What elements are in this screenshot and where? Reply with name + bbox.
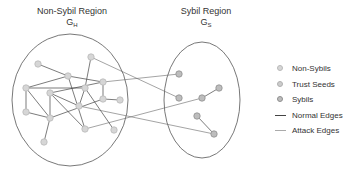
- legend-item-non-sybils: Non-Sybils: [274, 62, 331, 74]
- graph-nodes: [23, 54, 222, 145]
- sybil-region-label: Sybil Region: [181, 6, 232, 16]
- normal-edge-icon: [274, 109, 286, 121]
- non-sybil-node: [65, 73, 71, 79]
- normal-edge: [85, 57, 91, 88]
- legend-label: Non-Sybils: [292, 64, 331, 73]
- legend-label: Sybils: [292, 95, 313, 104]
- non-sybil-node: [23, 109, 29, 115]
- sybil-node: [194, 113, 200, 119]
- non-sybil-node: [76, 103, 82, 109]
- sybil-node: [176, 95, 182, 101]
- non-sybil-node: [23, 85, 29, 91]
- normal-edge: [50, 93, 79, 106]
- attack-edge: [79, 106, 214, 134]
- legend-label: Normal Edges: [292, 111, 343, 120]
- legend-item-trust-seeds: Trust Seeds: [274, 78, 335, 90]
- sybil-node: [216, 85, 222, 91]
- legend-label: Trust Seeds: [292, 80, 335, 89]
- normal-edge: [44, 118, 50, 142]
- sybil-network-diagram: Non-Sybil Region GH Sybil Region GS Non-…: [0, 0, 354, 170]
- normal-edge: [85, 88, 114, 130]
- honest-region-title: Non-Sybil Region GH: [22, 6, 122, 31]
- non-sybil-node-icon: [274, 62, 286, 74]
- normal-edge: [26, 76, 68, 88]
- non-sybil-node: [47, 90, 53, 96]
- normal-edge: [26, 88, 50, 118]
- non-sybil-node: [82, 126, 88, 132]
- non-sybil-node: [41, 139, 47, 145]
- honest-region-ellipse: [12, 34, 128, 166]
- sybil-node: [199, 95, 205, 101]
- attack-edge: [91, 57, 179, 98]
- normal-edge: [38, 64, 68, 76]
- non-sybil-node: [117, 97, 123, 103]
- non-sybil-node: [100, 79, 106, 85]
- honest-region-label: Non-Sybil Region: [37, 6, 107, 16]
- non-sybil-node: [82, 85, 88, 91]
- non-sybil-node: [35, 61, 41, 67]
- honest-region-symbol: GH: [22, 17, 122, 31]
- region-ellipses: [12, 34, 240, 166]
- non-sybil-node: [47, 115, 53, 121]
- legend-item-normal-edges: Normal Edges: [274, 109, 343, 121]
- attack-edge: [103, 74, 179, 82]
- normal-edge: [50, 93, 85, 129]
- attack-edge-icon: [274, 124, 286, 136]
- non-sybil-node: [88, 54, 94, 60]
- sybil-region-title: Sybil Region GS: [166, 6, 246, 31]
- sybil-node: [211, 131, 217, 137]
- non-sybil-node: [100, 96, 106, 102]
- normal-edge: [26, 112, 50, 118]
- sybil-node-icon: [274, 93, 286, 105]
- legend-item-sybils: Sybils: [274, 93, 313, 105]
- normal-edge: [50, 82, 103, 93]
- legend-label: Attack Edges: [292, 126, 339, 135]
- sybil-node: [176, 71, 182, 77]
- trust-seed-node-icon: [274, 78, 286, 90]
- non-sybil-node: [111, 127, 117, 133]
- legend-item-attack-edges: Attack Edges: [274, 124, 339, 136]
- sybil-region-symbol: GS: [166, 17, 246, 31]
- normal-edge: [68, 76, 103, 82]
